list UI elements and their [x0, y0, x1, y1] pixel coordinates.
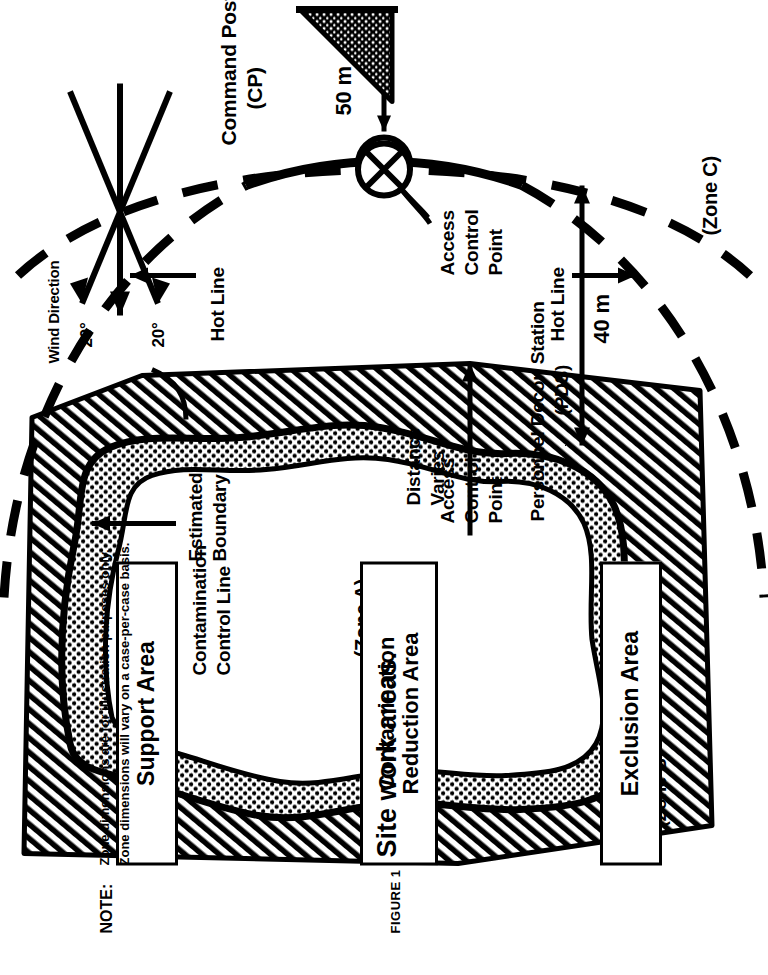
hot-line-label-upper: Hot Line	[208, 267, 229, 341]
note-line-1: Zone dimensions are for illustration pur…	[96, 549, 114, 865]
estimated-boundary-label-line1: Estimated	[186, 472, 207, 561]
distance-varies-label-line2: Varies	[428, 450, 449, 505]
area-box-exclusion-area: Exclusion Area	[600, 561, 662, 865]
access-control-point-outer-label-line2: Control	[462, 209, 483, 275]
note-line-2: Zone dimensions will vary on a case-per-…	[116, 542, 134, 865]
estimated-boundary-label-line2: Boundary	[210, 474, 231, 561]
access-control-point-outer-label-line3: Point	[486, 229, 507, 276]
wind-angle-left-label: 20°	[78, 322, 96, 347]
area-box-exclusion-area-label: Exclusion Area	[618, 630, 643, 795]
hot-line-label-lower: Hot Line	[548, 267, 569, 341]
figure-caption-id: FIGURE 1	[388, 869, 403, 933]
distance-varies-label-line1: Distance	[404, 427, 425, 505]
command-post-label-line2: (CP)	[244, 67, 267, 109]
access-control-point-outer-label-line1: Access	[438, 210, 459, 275]
wind-angle-right-label: 20°	[150, 322, 168, 347]
dimension-50m-label: 50 m	[332, 66, 356, 115]
personnel-decon-station-label-line2: (PDS)	[552, 364, 573, 415]
figure-rotator: Wind Direction 20° 20° Command Post (CP)…	[0, 0, 768, 975]
wind-direction-label: Wind Direction	[46, 260, 62, 363]
personnel-decon-station-label-line1: Personnel Decon Station	[528, 301, 549, 521]
access-control-point-inner-label-line3: Point	[486, 477, 507, 524]
site-work-areas-figure: Wind Direction 20° 20° Command Post (CP)…	[0, 0, 768, 975]
access-control-point-hotline-icon-layer	[324, 109, 444, 229]
area-box-support-area-label: Support Area	[134, 641, 159, 786]
command-post-label-line1: Command Post	[218, 0, 241, 145]
dimension-40m-label: 40 m	[590, 294, 614, 343]
note-label: NOTE:	[96, 883, 118, 933]
zone-c-label: (Zone C)	[700, 156, 722, 236]
access-control-point-inner-label-line2: Control	[462, 457, 483, 523]
figure-title: Site work areas.	[372, 651, 403, 857]
contamination-control-line-label-line1: Contamination Control Line	[188, 545, 236, 675]
leader-hot-line-upper	[130, 267, 196, 283]
